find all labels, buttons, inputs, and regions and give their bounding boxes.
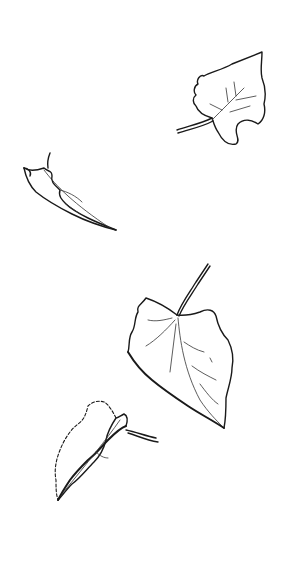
leaves-illustration [0,0,287,562]
leaf-top-right [177,52,265,144]
leaf-folded-bottom [55,401,158,500]
leaf-heart-center [128,264,233,428]
leaf-curled-left [24,153,116,230]
